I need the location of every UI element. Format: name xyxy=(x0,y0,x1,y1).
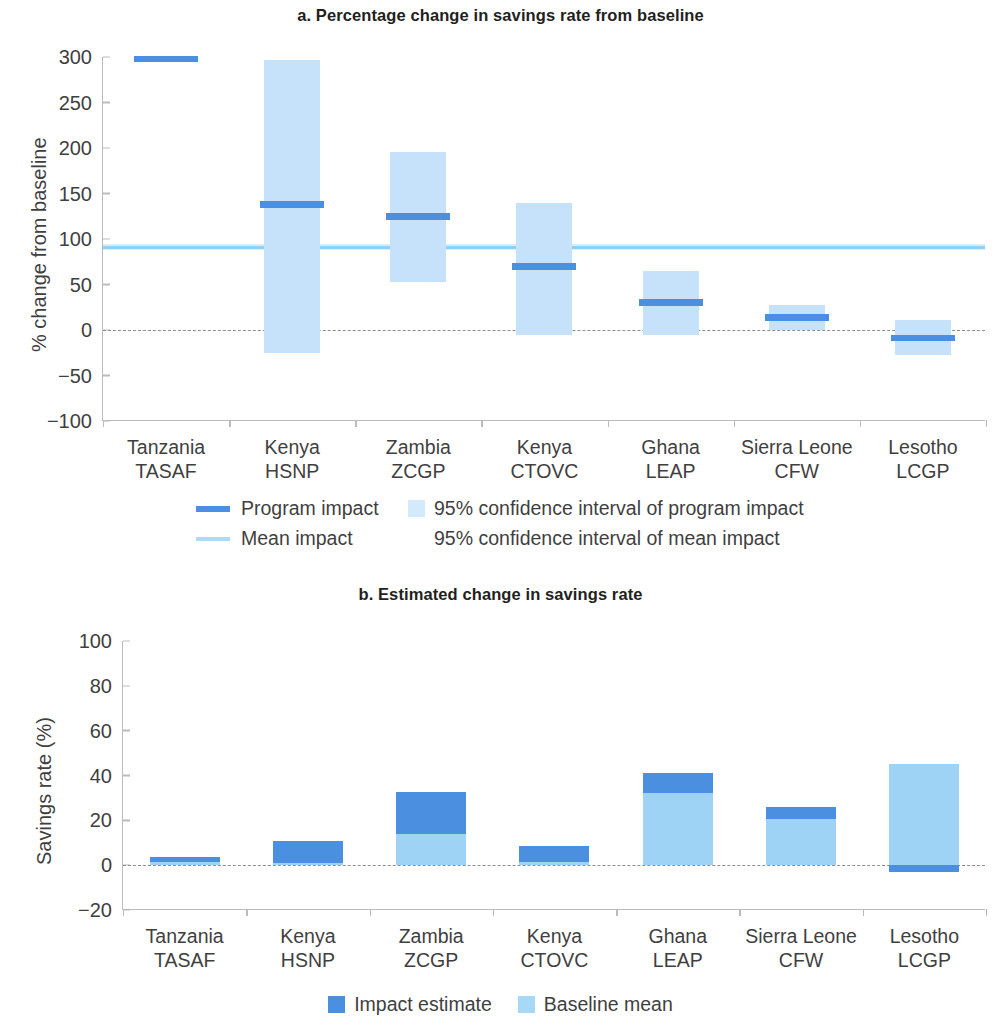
category-column: KenyaHSNP xyxy=(246,641,369,909)
category-column: KenyaCTOVC xyxy=(481,57,607,420)
x-tick-mark xyxy=(616,909,617,916)
baseline-mean-segment xyxy=(396,834,466,865)
y-tick-label: 80 xyxy=(90,674,123,697)
x-tick-mark xyxy=(246,909,247,916)
category-column: ZambiaZCGP xyxy=(370,641,493,909)
stacked-bar xyxy=(396,641,466,909)
stacked-bar xyxy=(273,641,343,909)
y-tick-label: −20 xyxy=(78,899,123,922)
figure-root: a. Percentage change in savings rate fro… xyxy=(0,0,1001,1030)
x-tick-label: Sierra LeoneCFW xyxy=(741,436,853,484)
x-tick-label-line: Zambia xyxy=(386,436,451,460)
program-impact-marker xyxy=(386,213,450,220)
x-tick-label: TanzaniaTASAF xyxy=(127,436,205,484)
x-tick-label: KenyaCTOVC xyxy=(521,925,589,973)
y-tick-label: 60 xyxy=(90,719,123,742)
x-tick-mark xyxy=(229,420,230,427)
legend-label-mean-impact: Mean impact xyxy=(241,527,353,550)
x-tick-label: KenyaHSNP xyxy=(280,925,335,973)
stacked-bar xyxy=(643,641,713,909)
y-tick-label: 0 xyxy=(81,319,103,342)
category-column: LesothoLCGP xyxy=(863,641,986,909)
y-tick-label: −100 xyxy=(47,410,103,433)
category-column: Sierra LeoneCFW xyxy=(734,57,860,420)
baseline-mean-segment xyxy=(643,793,713,865)
x-tick-label-line: Kenya xyxy=(521,925,589,949)
stacked-bar xyxy=(766,641,836,909)
panel-b: b. Estimated change in savings rate Savi… xyxy=(0,575,1001,1030)
legend-item-mean-impact: Mean impact xyxy=(196,527,408,550)
y-tick-label: 250 xyxy=(59,91,103,114)
impact-estimate-segment xyxy=(643,773,713,793)
x-tick-label-line: Kenya xyxy=(265,436,320,460)
x-tick-label: KenyaCTOVC xyxy=(511,436,579,484)
panel-b-y-axis-label: Savings rate (%) xyxy=(33,717,56,865)
impact-estimate-segment xyxy=(766,807,836,819)
category-column: KenyaHSNP xyxy=(229,57,355,420)
program-impact-marker xyxy=(134,56,198,63)
y-tick-label: 150 xyxy=(59,182,103,205)
legend-item-impact-estimate: Impact estimate xyxy=(328,993,492,1016)
impact-estimate-swatch-icon xyxy=(328,996,345,1013)
x-tick-label-line: ZCGP xyxy=(386,460,451,484)
x-tick-mark xyxy=(103,420,104,427)
panel-a-y-axis-label: % change from baseline xyxy=(28,137,51,352)
category-column: LesothoLCGP xyxy=(860,57,986,420)
x-tick-label-line: Lesotho xyxy=(890,925,959,949)
panel-a: a. Percentage change in savings rate fro… xyxy=(0,0,1001,560)
x-tick-label: Sierra LeoneCFW xyxy=(745,925,857,973)
panel-a-title: a. Percentage change in savings rate fro… xyxy=(0,6,1001,25)
y-tick-label: 100 xyxy=(79,630,123,653)
program-impact-marker xyxy=(639,299,703,306)
x-tick-label-line: Zambia xyxy=(399,925,464,949)
x-tick-label: ZambiaZCGP xyxy=(386,436,451,484)
impact-estimate-segment xyxy=(519,846,589,862)
x-tick-mark xyxy=(370,909,371,916)
legend-label-impact-estimate: Impact estimate xyxy=(354,993,492,1016)
x-tick-mark xyxy=(739,909,740,916)
legend-item-ci-program-impact: 95% confidence interval of program impac… xyxy=(408,497,804,520)
x-tick-label-line: Kenya xyxy=(280,925,335,949)
legend-item-program-impact: Program impact xyxy=(196,497,408,520)
x-tick-label-line: Sierra Leone xyxy=(741,436,853,460)
y-tick-label: 200 xyxy=(59,137,103,160)
baseline-mean-segment xyxy=(519,862,589,865)
legend-label-ci-mean-impact: 95% confidence interval of mean impact xyxy=(434,527,780,550)
stacked-bar xyxy=(519,641,589,909)
x-tick-label-line: TASAF xyxy=(127,460,205,484)
x-tick-mark xyxy=(493,909,494,916)
x-tick-mark xyxy=(123,909,124,916)
x-tick-label-line: LCGP xyxy=(888,460,957,484)
x-tick-label-line: ZCGP xyxy=(399,949,464,973)
x-tick-label-line: LEAP xyxy=(641,460,700,484)
y-tick-label: 300 xyxy=(59,46,103,69)
stacked-bar xyxy=(150,641,220,909)
x-tick-label-line: CTOVC xyxy=(521,949,589,973)
x-tick-label: LesothoLCGP xyxy=(890,925,959,973)
x-tick-mark xyxy=(860,420,861,427)
legend-item-ci-mean-impact: 95% confidence interval of mean impact xyxy=(408,527,780,550)
y-tick-label: 50 xyxy=(70,273,103,296)
legend-label-baseline-mean: Baseline mean xyxy=(544,993,673,1016)
x-tick-mark xyxy=(734,420,735,427)
program-impact-marker xyxy=(891,335,955,342)
y-tick-label: 40 xyxy=(90,764,123,787)
legend-item-baseline-mean: Baseline mean xyxy=(518,993,673,1016)
x-tick-label-line: TASAF xyxy=(146,949,224,973)
legend-label-program-impact: Program impact xyxy=(241,497,379,520)
impact-estimate-segment xyxy=(396,792,466,833)
x-tick-label: GhanaLEAP xyxy=(641,436,700,484)
program-impact-marker xyxy=(512,263,576,270)
x-tick-label: ZambiaZCGP xyxy=(399,925,464,973)
y-tick-label: 100 xyxy=(59,228,103,251)
baseline-mean-segment xyxy=(150,862,220,865)
impact-estimate-segment xyxy=(150,857,220,862)
x-tick-label-line: CFW xyxy=(745,949,857,973)
x-tick-label-line: LCGP xyxy=(890,949,959,973)
x-tick-mark xyxy=(481,420,482,427)
x-tick-label: TanzaniaTASAF xyxy=(146,925,224,973)
baseline-mean-swatch-icon xyxy=(518,996,535,1013)
category-column: TanzaniaTASAF xyxy=(103,57,229,420)
x-tick-label-line: Kenya xyxy=(511,436,579,460)
panel-b-title: b. Estimated change in savings rate xyxy=(0,585,1001,604)
